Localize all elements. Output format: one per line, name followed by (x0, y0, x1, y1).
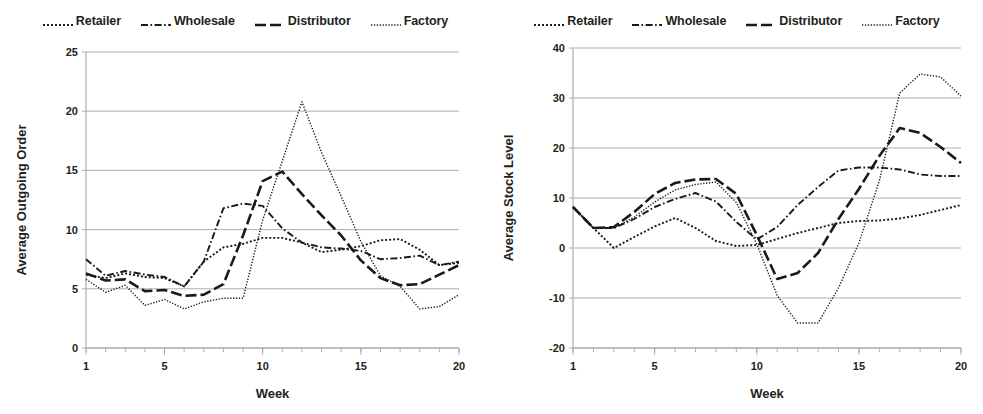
x-tick-label-10: 10 (751, 360, 763, 372)
series-line-retailer (573, 205, 961, 248)
y-tick-label--10: -10 (549, 292, 565, 304)
x-axis-title: Week (750, 386, 784, 401)
chart-panel-outgoing-order: RetailerWholesaleDistributorFactory 0510… (0, 0, 491, 414)
plot-area-stock-level: -20-1001020304015101520Average Stock Lev… (491, 0, 983, 414)
series-line-wholesale (86, 204, 459, 287)
y-tick-label-0: 0 (559, 242, 565, 254)
y-tick-label-10: 10 (553, 192, 565, 204)
y-tick-label-20: 20 (553, 142, 565, 154)
x-tick-label-5: 5 (652, 360, 658, 372)
line-chart-svg-stock-level: -20-1001020304015101520Average Stock Lev… (491, 0, 983, 414)
two-panel-line-chart-figure: RetailerWholesaleDistributorFactory 0510… (0, 0, 983, 414)
y-tick-label-30: 30 (553, 92, 565, 104)
series-line-distributor (573, 128, 961, 279)
y-tick-label-20: 20 (66, 105, 78, 117)
series-line-wholesale (573, 168, 961, 240)
y-tick-label--20: -20 (549, 342, 565, 354)
y-tick-label-40: 40 (553, 42, 565, 54)
x-axis-title: Week (256, 386, 290, 401)
plot-area-outgoing-order: 051015202515101520Average Outgoing Order… (0, 0, 491, 414)
y-tick-label-0: 0 (72, 342, 78, 354)
x-tick-label-10: 10 (257, 360, 269, 372)
y-tick-label-5: 5 (72, 283, 78, 295)
series-line-factory (86, 102, 459, 309)
y-axis-title: Average Outgoing Order (14, 124, 29, 275)
line-chart-svg-outgoing-order: 051015202515101520Average Outgoing Order… (0, 0, 491, 414)
chart-panel-stock-level: RetailerWholesaleDistributorFactory -20-… (491, 0, 983, 414)
series-line-factory (573, 74, 961, 323)
x-tick-label-1: 1 (570, 360, 576, 372)
x-tick-label-15: 15 (355, 360, 367, 372)
x-tick-label-1: 1 (83, 360, 89, 372)
x-tick-label-5: 5 (161, 360, 167, 372)
y-axis-title: Average Stock Level (501, 135, 516, 262)
x-tick-label-20: 20 (955, 360, 967, 372)
x-tick-label-15: 15 (853, 360, 865, 372)
x-tick-label-20: 20 (453, 360, 465, 372)
y-tick-label-15: 15 (66, 164, 78, 176)
y-tick-label-10: 10 (66, 224, 78, 236)
series-line-retailer (86, 238, 459, 287)
y-tick-label-25: 25 (66, 46, 78, 58)
